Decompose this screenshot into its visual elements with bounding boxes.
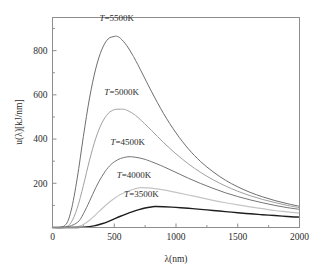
- x-tick-label: 2000: [290, 232, 309, 242]
- y-tick-label: 800: [33, 46, 48, 56]
- chart-canvas: 0500100015002000 200400600800 T=5500KT=5…: [0, 0, 328, 277]
- curve-label-4000K: T=4000K: [117, 170, 152, 180]
- blackbody-spectrum-figure: 0500100015002000 200400600800 T=5500KT=5…: [0, 0, 328, 277]
- x-tick-label: 0: [50, 232, 55, 242]
- y-tick-label: 600: [33, 90, 48, 100]
- x-tick-label: 1500: [228, 232, 247, 242]
- y-tick-label: 200: [33, 179, 48, 189]
- x-tick-label: 500: [107, 232, 122, 242]
- curve-label-5000K: T=5000K: [104, 87, 139, 97]
- y-tick-label: 400: [33, 134, 48, 144]
- x-tick-label: 1000: [167, 232, 186, 242]
- x-axis-title: λ(nm): [164, 254, 187, 265]
- curve-label-5500K: T=5500K: [99, 13, 134, 23]
- y-axis-title: u(λ)[kJ/nm]: [14, 99, 25, 144]
- curve-label-4500K: T=4500K: [111, 137, 146, 147]
- curve-label-3500K: T=3500K: [124, 189, 159, 199]
